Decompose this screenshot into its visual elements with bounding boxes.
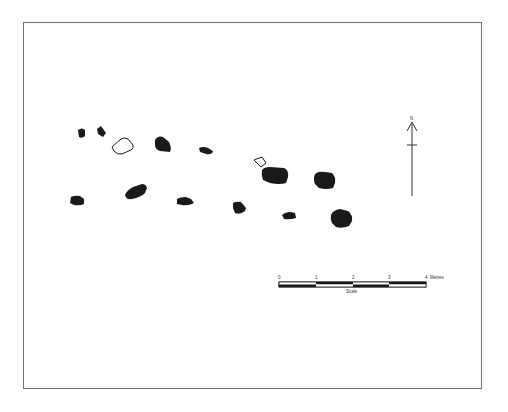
scale-tick-4: 4 xyxy=(425,275,428,280)
scale-tick-0: 0 xyxy=(278,275,281,280)
feature-outline-stone-2 xyxy=(254,157,266,167)
feature-post-hole-12 xyxy=(331,209,353,228)
feature-post-hole-8 xyxy=(125,184,147,199)
north-arrow: N xyxy=(407,116,417,196)
scale-tick-1: 1 xyxy=(315,275,318,280)
feature-post-hole-5 xyxy=(262,167,289,184)
scale-bar: 0 1 2 3 4 Metres Scale xyxy=(278,275,445,294)
scale-caption: Scale xyxy=(346,289,358,294)
feature-post-hole-4 xyxy=(199,147,213,154)
feature-post-hole-11 xyxy=(282,212,296,219)
feature-post-hole-1 xyxy=(78,129,85,138)
feature-post-hole-3 xyxy=(155,136,171,152)
feature-post-hole-7 xyxy=(70,196,84,206)
feature-post-hole-6 xyxy=(314,172,335,189)
scale-tick-3: 3 xyxy=(388,275,391,280)
north-label: N xyxy=(410,116,413,121)
feature-post-hole-10 xyxy=(233,202,246,214)
feature-outline-stone-1 xyxy=(112,138,133,154)
scale-unit: Metres xyxy=(430,275,445,280)
feature-post-hole-2 xyxy=(97,126,106,137)
feature-post-hole-9 xyxy=(177,197,194,205)
scale-tick-2: 2 xyxy=(352,275,355,280)
site-plan: N 0 1 2 3 4 Metres Scale xyxy=(0,0,508,412)
